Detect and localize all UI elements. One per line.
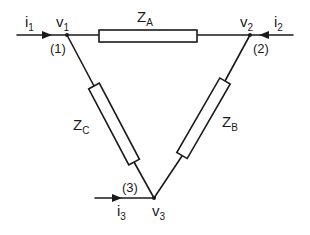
right-branch: [154, 35, 250, 198]
node-1-dot: [65, 33, 69, 37]
current-label-i2: i2: [274, 13, 283, 33]
node-3-dot: [152, 196, 156, 200]
node-number-3: (3): [122, 180, 138, 195]
wire-zb-top: [225, 35, 250, 81]
current-label-i1: i1: [25, 13, 34, 33]
delta-network-diagram: i1 v1 (1) v2 i2 (2) (3) i3 v3 ZA ZB ZC: [0, 0, 310, 235]
voltage-label-v1: v1: [56, 13, 70, 33]
voltage-label-v2: v2: [240, 13, 254, 33]
impedance-zc: [89, 83, 140, 165]
arrow-i2-icon: [259, 31, 269, 39]
node-number-2: (2): [253, 41, 269, 56]
node-2-dot: [248, 33, 252, 37]
wire-zb-bottom: [154, 156, 182, 198]
node-number-1: (1): [50, 41, 66, 56]
voltage-label-v3: v3: [152, 202, 166, 222]
impedance-label-zc: ZC: [73, 116, 89, 136]
arrow-i1-icon: [42, 31, 52, 39]
impedance-za: [99, 30, 197, 42]
wire-zc-top: [67, 35, 94, 86]
impedance-label-zb: ZB: [222, 113, 238, 133]
impedance-label-za: ZA: [137, 8, 153, 28]
current-label-i3: i3: [117, 202, 126, 222]
